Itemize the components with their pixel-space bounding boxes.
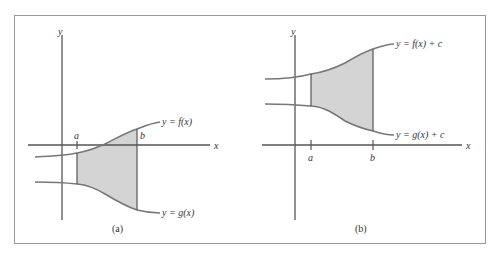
y-axis-label-a: y xyxy=(57,26,63,37)
shaded-region-a xyxy=(77,129,137,210)
caption-b: (b) xyxy=(355,223,367,235)
curve-label-g-a: y = g(x) xyxy=(161,207,195,219)
caption-a: (a) xyxy=(112,223,123,235)
figure-canvas: y x a b y = f(x) y = g(x) (a) y x a b y … xyxy=(0,0,500,256)
tick-label-a-panel-a: a xyxy=(74,130,79,141)
x-axis-label-a: x xyxy=(213,140,219,151)
panel-b: y x a b y = f(x) + c y = g(x) + c (b) xyxy=(262,26,471,235)
curve-label-g-b: y = g(x) + c xyxy=(395,129,445,141)
curve-label-f-b: y = f(x) + c xyxy=(395,38,443,50)
y-axis-label-b: y xyxy=(290,26,296,37)
curve-label-f-a: y = f(x) xyxy=(161,116,193,128)
panel-a: y x a b y = f(x) y = g(x) (a) xyxy=(28,26,219,235)
x-axis-label-b: x xyxy=(465,140,471,151)
tick-label-a-panel-b: a xyxy=(308,152,313,163)
tick-label-b-panel-b: b xyxy=(370,152,375,163)
tick-label-b-panel-a: b xyxy=(140,130,145,141)
